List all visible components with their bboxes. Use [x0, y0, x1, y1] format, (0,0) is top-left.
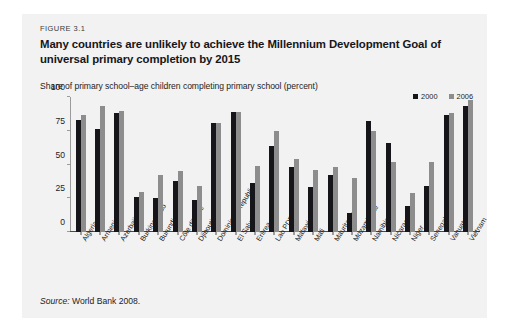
y-axis-tick-mark: [67, 164, 70, 165]
bar-2006[interactable]: [333, 167, 338, 232]
y-axis-tick-mark: [67, 96, 70, 97]
bar-group: Côte d'Ivoire: [168, 97, 187, 232]
bar-group: Senegal: [420, 97, 439, 232]
bar-2006[interactable]: [468, 100, 473, 232]
bar-2006[interactable]: [236, 112, 241, 232]
bar-group: Mali: [304, 97, 323, 232]
bar-2006[interactable]: [197, 186, 202, 232]
bar-2006[interactable]: [100, 106, 105, 232]
y-axis-tick-label: 0: [60, 217, 65, 227]
chart-subtitle: Share of primary school–age children com…: [40, 81, 318, 91]
bar-2006[interactable]: [119, 111, 124, 233]
bar-group: Algeria: [71, 97, 90, 232]
y-axis-tick-label: 100: [51, 82, 65, 92]
bar-2006[interactable]: [313, 170, 318, 232]
bar-2006[interactable]: [274, 131, 279, 232]
chart-plot-area: 0255075100 AlgeriaArmeniaAzerbaijanBurki…: [70, 97, 478, 232]
bar-group: Burundi: [149, 97, 168, 232]
source-note: Source: World Bank 2008.: [40, 296, 140, 306]
bar-group: Malawi: [284, 97, 303, 232]
bar-group: Nicaragua: [381, 97, 400, 232]
bar-group: Azerbaijan: [110, 97, 129, 232]
bar-2006[interactable]: [158, 175, 163, 232]
figure-number: FIGURE 3.1: [40, 24, 85, 33]
bar-group: Burkina Faso: [129, 97, 148, 232]
bar-group: Lao PDR: [265, 97, 284, 232]
bar-group: Eritrea: [245, 97, 264, 232]
bar-group: Armenia: [90, 97, 109, 232]
bar-group: Namibia: [362, 97, 381, 232]
bar-group: Vanuatu: [439, 97, 458, 232]
bar-2006[interactable]: [139, 192, 144, 233]
bar-2006[interactable]: [429, 162, 434, 232]
bar-2006[interactable]: [216, 123, 221, 232]
y-axis-tick-mark: [67, 130, 70, 131]
figure-panel: FIGURE 3.1 Many countries are unlikely t…: [22, 14, 487, 318]
y-axis-tick-label: 50: [55, 150, 65, 160]
bar-2006[interactable]: [391, 162, 396, 232]
bar-groups: AlgeriaArmeniaAzerbaijanBurkina FasoBuru…: [71, 97, 478, 232]
bar-2006[interactable]: [255, 166, 260, 232]
y-axis-tick-label: 75: [55, 116, 65, 126]
y-axis-tick-mark: [67, 231, 70, 232]
y-axis-tick-label: 25: [55, 183, 65, 193]
bar-2006[interactable]: [410, 193, 415, 232]
bar-group: Mozambique: [342, 97, 361, 232]
source-label: Source:: [40, 296, 70, 306]
bar-2006[interactable]: [449, 113, 454, 232]
bar-group: Dominican Republic: [207, 97, 226, 232]
bar-2006[interactable]: [81, 115, 86, 232]
bar-2006[interactable]: [352, 178, 357, 232]
bar-group: Djibouti: [187, 97, 206, 232]
bar-group: El Salvador: [226, 97, 245, 232]
y-axis-tick-mark: [67, 197, 70, 198]
bar-group: Niger: [400, 97, 419, 232]
bar-group: Mauritania: [323, 97, 342, 232]
figure-title: Many countries are unlikely to achieve t…: [40, 37, 470, 66]
source-text: World Bank 2008.: [70, 296, 141, 306]
bar-group: Vietnam: [459, 97, 478, 232]
bar-2006[interactable]: [178, 171, 183, 232]
bar-2006[interactable]: [371, 131, 376, 232]
bar-2006[interactable]: [294, 159, 299, 232]
